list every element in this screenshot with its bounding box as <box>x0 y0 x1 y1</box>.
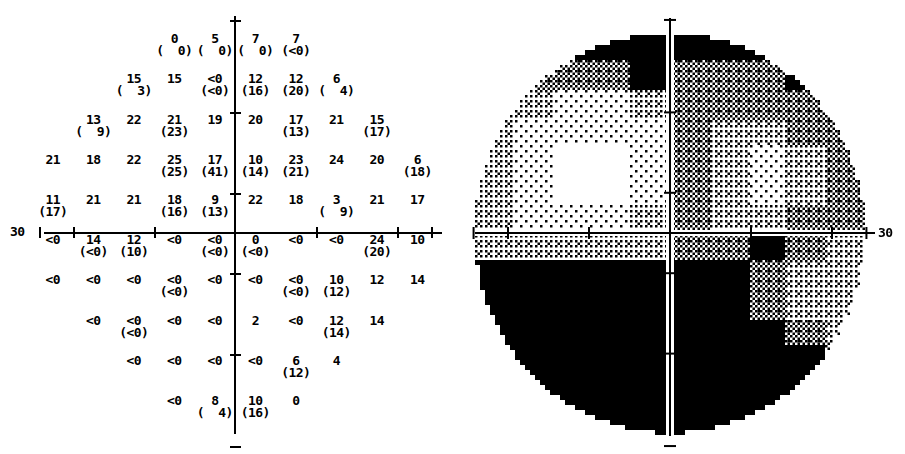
sensitivity-cell: 0(<0) <box>232 233 278 258</box>
sensitivity-value: 10 <box>394 233 440 246</box>
total-deviation-value: (10) <box>111 245 157 258</box>
sensitivity-cell: <0(<0) <box>192 72 238 97</box>
total-deviation-value: (13) <box>273 125 319 138</box>
sensitivity-cell: 17(13) <box>273 113 319 138</box>
total-deviation-value: (14) <box>313 326 359 339</box>
sensitivity-value: 20 <box>232 113 278 126</box>
sensitivity-cell: 14(<0) <box>70 233 116 258</box>
sensitivity-cell: <0 <box>111 354 157 367</box>
total-deviation-value: (20) <box>273 84 319 97</box>
sensitivity-value: 24 <box>313 153 359 166</box>
sensitivity-cell: 14 <box>394 273 440 286</box>
sensitivity-cell: 12 <box>354 273 400 286</box>
sensitivity-value: 14 <box>354 314 400 327</box>
sensitivity-value: <0 <box>30 233 76 246</box>
sensitivity-cell: <0 <box>192 354 238 367</box>
sensitivity-value: <0 <box>70 273 116 286</box>
sensitivity-value: 12 <box>354 273 400 286</box>
numeric-sensitivity-plot: 0( 0)5( 0)7( 0)7(<0)15( 3)15<0(<0)12(16)… <box>0 0 455 454</box>
sensitivity-value: <0 <box>232 273 278 286</box>
total-deviation-value: (<0) <box>232 245 278 258</box>
total-deviation-value: (<0) <box>151 285 197 298</box>
total-deviation-value: (12) <box>313 285 359 298</box>
sensitivity-cell: 12(16) <box>232 72 278 97</box>
total-deviation-value: ( 0) <box>232 44 278 57</box>
sensitivity-value: 22 <box>232 193 278 206</box>
sensitivity-cell: 6( 4) <box>313 72 359 97</box>
sensitivity-cell: 12(14) <box>313 314 359 339</box>
total-deviation-value: (16) <box>232 406 278 419</box>
sensitivity-cell: 17 <box>394 193 440 206</box>
sensitivity-cell: <0 <box>273 314 319 327</box>
axis-tick-v <box>230 20 241 22</box>
total-deviation-value: (18) <box>394 165 440 178</box>
sensitivity-cell: 10(12) <box>313 273 359 298</box>
sensitivity-value: 15 <box>151 72 197 85</box>
total-deviation-value: (41) <box>192 165 238 178</box>
sensitivity-value: 18 <box>273 193 319 206</box>
sensitivity-cell: 14 <box>354 314 400 327</box>
sensitivity-value: <0 <box>151 354 197 367</box>
total-deviation-value: (25) <box>151 165 197 178</box>
total-deviation-value: (<0) <box>70 245 116 258</box>
sensitivity-cell: 25(25) <box>151 153 197 178</box>
sensitivity-value: 22 <box>111 153 157 166</box>
sensitivity-cell: 0 <box>273 394 319 407</box>
sensitivity-cell: 19 <box>192 113 238 126</box>
sensitivity-value: <0 <box>232 354 278 367</box>
total-deviation-value: (<0) <box>192 245 238 258</box>
sensitivity-value: <0 <box>151 233 197 246</box>
sensitivity-cell: 4 <box>313 354 359 367</box>
sensitivity-value: <0 <box>192 354 238 367</box>
sensitivity-cell: 24 <box>313 153 359 166</box>
sensitivity-cell: 22 <box>111 153 157 166</box>
sensitivity-cell: <0 <box>273 233 319 246</box>
sensitivity-value: 21 <box>111 193 157 206</box>
sensitivity-value: <0 <box>30 273 76 286</box>
sensitivity-cell: 10 <box>394 233 440 246</box>
sensitivity-cell: <0 <box>313 233 359 246</box>
sensitivity-cell: 15( 3) <box>111 72 157 97</box>
sensitivity-cell: 22 <box>232 193 278 206</box>
sensitivity-cell: 13( 9) <box>70 113 116 138</box>
sensitivity-value: <0 <box>273 233 319 246</box>
axis-tick-v <box>230 446 241 448</box>
sensitivity-cell: 12(10) <box>111 233 157 258</box>
axis-label-30-right: 30 <box>878 225 893 240</box>
total-deviation-value: (16) <box>151 205 197 218</box>
sensitivity-value: 22 <box>111 113 157 126</box>
sensitivity-cell: 10(16) <box>232 394 278 419</box>
sensitivity-cell: <0 <box>232 354 278 367</box>
sensitivity-value: <0 <box>273 314 319 327</box>
sensitivity-cell: 17(41) <box>192 153 238 178</box>
sensitivity-value: 4 <box>313 354 359 367</box>
total-deviation-value: ( 4) <box>313 84 359 97</box>
total-deviation-value: ( 0) <box>151 44 197 57</box>
sensitivity-value: <0 <box>151 394 197 407</box>
total-deviation-value: (23) <box>151 125 197 138</box>
sensitivity-cell: 6(18) <box>394 153 440 178</box>
sensitivity-cell: 15(17) <box>354 113 400 138</box>
sensitivity-cell: 21 <box>313 113 359 126</box>
sensitivity-cell: 5( 0) <box>192 32 238 57</box>
sensitivity-cell: 7( 0) <box>232 32 278 57</box>
sensitivity-value: 21 <box>30 153 76 166</box>
total-deviation-value: (21) <box>273 165 319 178</box>
visual-field-report: 0( 0)5( 0)7( 0)7(<0)15( 3)15<0(<0)12(16)… <box>0 0 905 454</box>
sensitivity-cell: 18(16) <box>151 193 197 218</box>
sensitivity-value: 21 <box>354 193 400 206</box>
sensitivity-cell: 23(21) <box>273 153 319 178</box>
sensitivity-cell: 9(13) <box>192 193 238 218</box>
sensitivity-cell: 7(<0) <box>273 32 319 57</box>
sensitivity-value: 2 <box>232 314 278 327</box>
sensitivity-cell: 18 <box>70 153 116 166</box>
sensitivity-value: 0 <box>273 394 319 407</box>
sensitivity-cell: 6(12) <box>273 354 319 379</box>
total-deviation-value: (17) <box>30 205 76 218</box>
sensitivity-cell: 20 <box>232 113 278 126</box>
sensitivity-cell: 15 <box>151 72 197 85</box>
sensitivity-cell: 21 <box>111 193 157 206</box>
sensitivity-value: <0 <box>192 314 238 327</box>
sensitivity-cell: <0 <box>30 233 76 246</box>
sensitivity-value: 21 <box>70 193 116 206</box>
